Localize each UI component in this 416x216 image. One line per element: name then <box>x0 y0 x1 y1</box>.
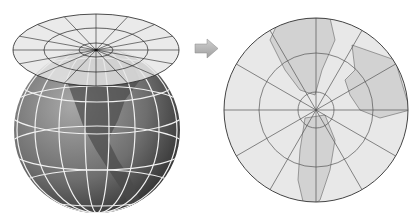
projection-plane <box>13 14 179 86</box>
polar-map <box>224 18 410 210</box>
projection-diagram <box>0 0 416 216</box>
pole-point <box>95 49 98 52</box>
arrow-icon <box>195 39 218 58</box>
